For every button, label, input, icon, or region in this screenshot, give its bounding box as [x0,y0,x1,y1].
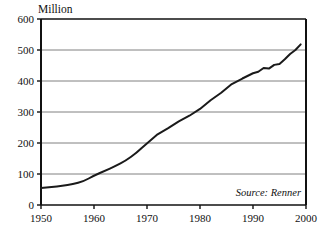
y-tick-label-400: 400 [18,75,35,87]
y-tick-label-600: 600 [18,13,35,25]
chart-background [0,0,322,240]
chart-container: 0100200300400500600 19501960197019801990… [0,0,322,240]
y-tick-label-500: 500 [18,44,35,56]
x-tick-label-1970: 1970 [136,212,159,224]
x-tick-label-1960: 1960 [83,212,106,224]
x-tick-label-1980: 1980 [189,212,212,224]
y-axis-title: Million [38,3,73,15]
x-tick-label-2000: 2000 [295,212,318,224]
y-tick-label-0: 0 [29,199,35,211]
source-annotation: Source: Renner [236,187,302,198]
x-tick-label-1990: 1990 [242,212,265,224]
line-chart: 0100200300400500600 19501960197019801990… [0,0,322,240]
y-tick-label-300: 300 [18,106,35,118]
x-tick-label-1950: 1950 [30,212,53,224]
y-tick-label-200: 200 [18,137,35,149]
y-tick-label-100: 100 [18,168,35,180]
